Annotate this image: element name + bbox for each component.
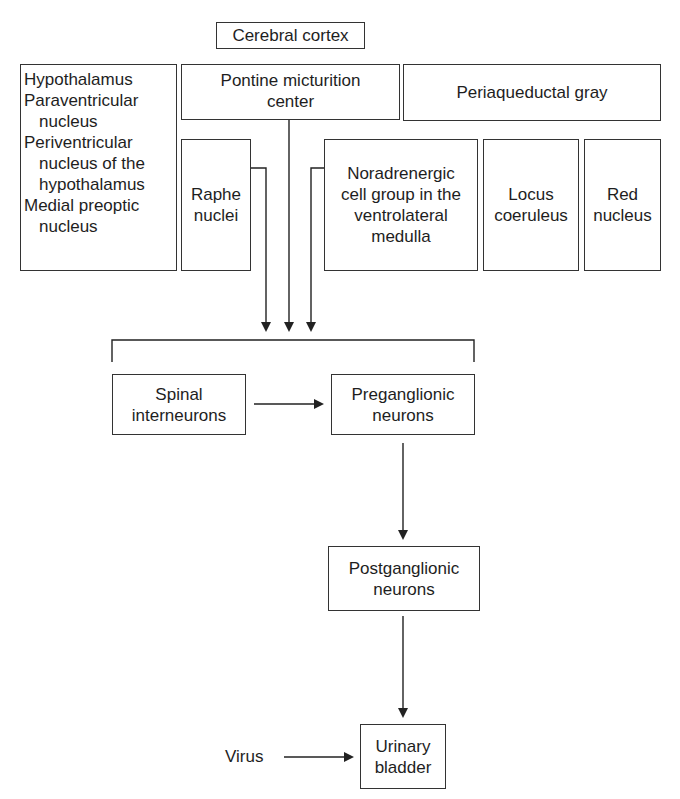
raphe-nuclei-box: Raphe nuclei: [181, 139, 251, 271]
preganglionic-neurons-label: Preganglionic neurons: [351, 384, 454, 426]
pontine-micturition-center-label: Pontine micturition center: [221, 70, 361, 112]
preganglionic-neurons-box: Preganglionic neurons: [331, 374, 475, 435]
cerebral-cortex-box: Cerebral cortex: [216, 22, 365, 49]
hypothalamus-line: nucleus: [24, 216, 98, 237]
hypothalamus-line: Paraventricular: [24, 90, 138, 111]
hypothalamus-line: Periventricular: [24, 132, 133, 153]
pontine-micturition-center-box: Pontine micturition center: [181, 64, 400, 120]
spinal-interneurons-label: Spinal interneurons: [132, 384, 227, 426]
urinary-bladder-label: Urinary bladder: [375, 736, 432, 778]
noradrenergic-cell-group-box: Noradrenergic cell group in the ventrola…: [324, 139, 478, 271]
spinal-interneurons-box: Spinal interneurons: [112, 374, 246, 435]
periaqueductal-gray-box: Periaqueductal gray: [403, 64, 661, 121]
periaqueductal-gray-label: Periaqueductal gray: [456, 82, 607, 103]
locus-coeruleus-label: Locus coeruleus: [494, 184, 568, 226]
hypothalamus-line: nucleus of the: [24, 153, 145, 174]
red-nucleus-box: Red nucleus: [584, 139, 661, 271]
red-nucleus-label: Red nucleus: [593, 184, 652, 226]
postganglionic-neurons-box: Postganglionic neurons: [328, 546, 480, 611]
virus-label: Virus: [225, 747, 263, 767]
hypothalamus-line: Hypothalamus: [24, 69, 133, 90]
hypothalamus-line: hypothalamus: [24, 174, 145, 195]
postganglionic-neurons-label: Postganglionic neurons: [349, 558, 460, 600]
urinary-bladder-box: Urinary bladder: [360, 724, 446, 789]
hypothalamus-line: nucleus: [24, 111, 98, 132]
raphe-nuclei-label: Raphe nuclei: [191, 184, 241, 226]
hypothalamus-box: HypothalamusParaventricularnucleusPerive…: [20, 64, 177, 271]
noradrenergic-cell-group-label: Noradrenergic cell group in the ventrola…: [341, 163, 461, 247]
cerebral-cortex-label: Cerebral cortex: [232, 25, 348, 46]
hypothalamus-line: Medial preoptic: [24, 195, 139, 216]
locus-coeruleus-box: Locus coeruleus: [483, 139, 579, 271]
